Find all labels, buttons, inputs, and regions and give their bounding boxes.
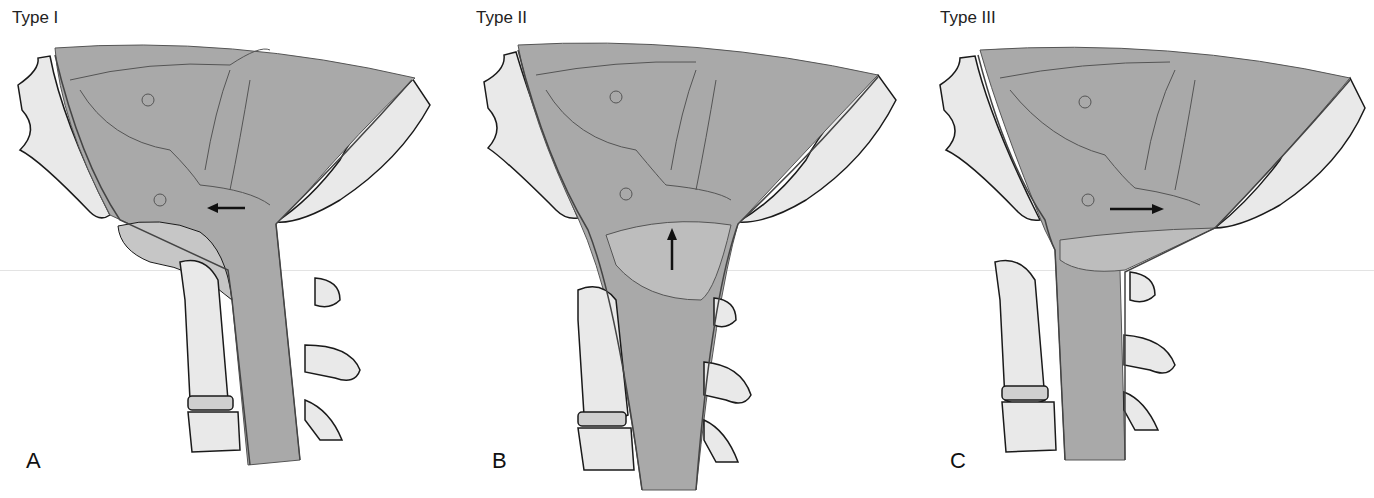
panel-letter: C [950,448,966,474]
panel-type-2: Type II B [466,0,924,498]
sagittal-section-illustration [466,0,924,498]
sagittal-section-illustration [0,0,458,498]
panel-letter: B [492,448,507,474]
panel-type-3: Type III C [930,0,1374,498]
panel-letter: A [26,448,41,474]
panel-type-1: Type I A [0,0,458,498]
sagittal-section-illustration [930,0,1374,498]
